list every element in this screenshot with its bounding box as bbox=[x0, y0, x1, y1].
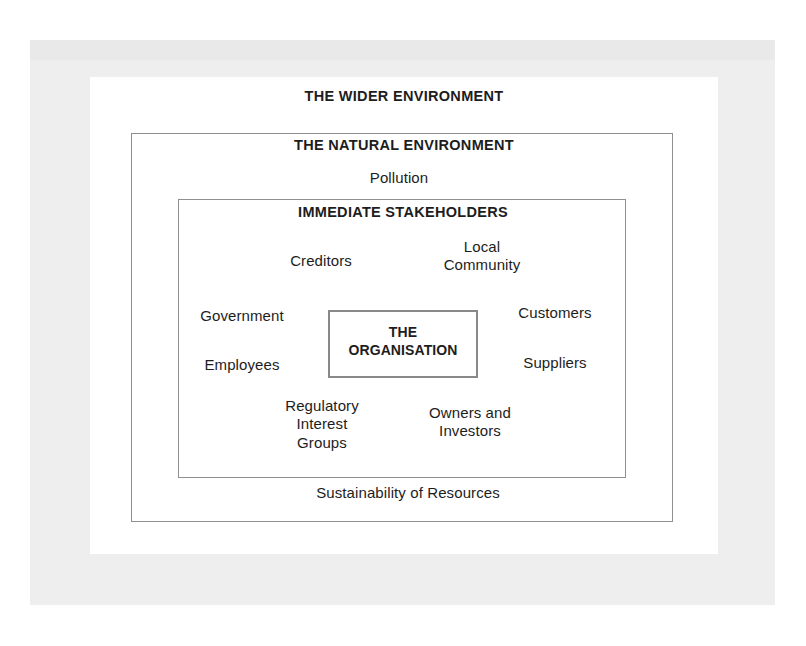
stakeholder-government: Government bbox=[200, 307, 284, 325]
box-label-the-organisation: THE ORGANISATION bbox=[348, 324, 457, 359]
natural-environment-item-pollution: Pollution bbox=[370, 169, 428, 187]
scan-edge-band-top bbox=[30, 40, 775, 60]
stakeholder-creditors: Creditors bbox=[290, 252, 352, 270]
stakeholder-employees: Employees bbox=[204, 356, 279, 374]
diagram-canvas: THE WIDER ENVIRONMENT THE NATURAL ENVIRO… bbox=[0, 0, 806, 646]
stakeholder-suppliers: Suppliers bbox=[523, 354, 586, 372]
stakeholder-customers: Customers bbox=[518, 304, 591, 322]
stakeholder-owners-and-investors: Owners and Investors bbox=[429, 404, 511, 441]
natural-environment-item-sustainability: Sustainability of Resources bbox=[316, 484, 500, 502]
stakeholder-regulatory-interest-groups: Regulatory Interest Groups bbox=[285, 397, 359, 452]
ring-label-immediate-stakeholders: IMMEDIATE STAKEHOLDERS bbox=[298, 204, 508, 222]
stakeholder-local-community: Local Community bbox=[444, 238, 521, 275]
ring-label-wider-environment: THE WIDER ENVIRONMENT bbox=[305, 88, 504, 106]
ring-label-natural-environment: THE NATURAL ENVIRONMENT bbox=[294, 137, 514, 155]
